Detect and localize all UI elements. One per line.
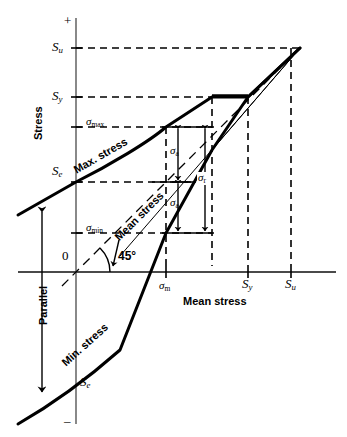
annotation-sigma-a-lower-sub: a <box>175 201 178 210</box>
tick-marks <box>71 48 291 278</box>
x-tick-sy: Sy <box>242 277 252 292</box>
y-tick-se-lower-sub: e <box>87 380 91 390</box>
annotation-sigma-a-upper-sub: a <box>175 149 178 158</box>
annotation-sigma-a-upper: σa <box>170 145 179 158</box>
y-tick-sy-sub: y <box>59 94 63 104</box>
x-tick-sy-sub: y <box>249 282 253 292</box>
y-tick-se-upper-sub: e <box>59 169 63 179</box>
x-tick-sigma-m: σm <box>159 280 170 293</box>
fatigue-diagram: + – Stress Mean stress 0 Su Sy σmax Se σ… <box>0 0 347 437</box>
y-tick-se-lower: Se <box>80 375 90 390</box>
x-tick-su: Su <box>285 277 296 292</box>
origin-label: 0 <box>62 249 69 262</box>
annotation-sigma-r: σr <box>197 172 207 185</box>
y-tick-su: Su <box>52 40 63 55</box>
y-tick-sigma-min-sub: min <box>91 226 103 235</box>
negative-sign-label: – <box>64 414 71 427</box>
angle-label: 45° <box>118 250 136 262</box>
y-tick-su-sub: u <box>59 45 63 55</box>
y-tick-sigma-max: σmax <box>86 116 104 129</box>
y-tick-se-upper: Se <box>52 164 62 179</box>
x-axis-title: Mean stress <box>183 296 247 307</box>
diagram-canvas <box>0 0 347 437</box>
parallel-label: Parallel <box>38 286 49 325</box>
max-stress-curve <box>18 48 300 215</box>
y-tick-sigma-min: σmin <box>86 222 103 235</box>
x-tick-su-sub: u <box>292 282 296 292</box>
y-axis-title: Stress <box>33 106 44 140</box>
y-tick-sigma-max-sub: max <box>91 120 104 129</box>
annotation-sigma-a-lower: σa <box>170 197 179 210</box>
positive-sign-label: + <box>64 14 71 27</box>
y-tick-sy: Sy <box>52 89 62 104</box>
annotation-sigma-r-sub: r <box>203 176 206 185</box>
x-tick-sigma-m-sub: m <box>164 284 170 293</box>
auxiliary-construction-line <box>120 48 300 256</box>
angle-indicator <box>100 240 119 272</box>
